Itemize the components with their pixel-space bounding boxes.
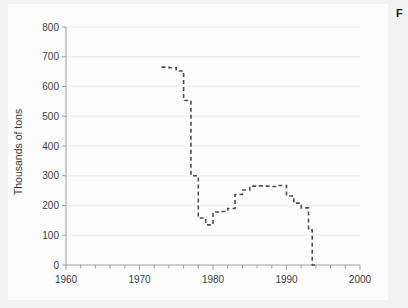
x-axis-tick-label: 1960 [55,274,78,285]
figure-container: 0100200300400500600700800 19601970198019… [0,0,408,308]
y-axis-tick-label: 0 [53,260,59,271]
y-axis-tick-label: 700 [42,51,59,62]
y-axis-tick-label: 800 [42,22,59,33]
chart-canvas: 0100200300400500600700800 19601970198019… [8,4,388,300]
y-axis-tick-label: 300 [42,170,59,181]
x-axis-tick-label: 1970 [128,274,151,285]
y-axis-tick-label: 500 [42,111,59,122]
x-axis-tick-label: 1980 [202,274,225,285]
y-axis-tick-label: 600 [42,81,59,92]
y-axis-tick-group: 0100200300400500600700800 [42,22,66,271]
y-axis-tick-label: 100 [42,230,59,241]
x-axis-tick-label: 1990 [275,274,298,285]
y-axis-tick-label: 200 [42,200,59,211]
figure-caption-label: F [396,7,403,19]
gridline-group [66,27,360,235]
x-axis-tick-label: 2000 [349,274,372,285]
y-axis-tick-label: 400 [42,141,59,152]
time-series-chart: 0100200300400500600700800 19601970198019… [8,4,388,300]
y-axis-title: Thousands of tons [12,109,24,195]
x-axis-tick-group: 19601970198019902000 [55,265,372,285]
